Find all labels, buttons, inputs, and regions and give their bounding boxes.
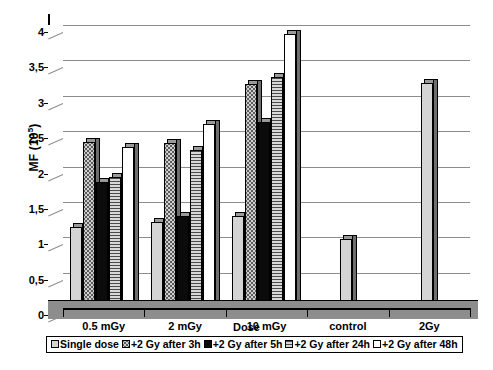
bar-group <box>389 25 470 308</box>
x-tick-mark <box>63 308 64 317</box>
wall-tick <box>48 138 63 145</box>
bar-group <box>307 25 388 308</box>
bar-body <box>232 216 244 308</box>
bar-group <box>144 25 225 308</box>
legend-swatch-icon <box>373 340 381 348</box>
y-tick-label: 2,5 <box>29 132 44 144</box>
chart-side-wall <box>48 25 63 308</box>
legend-swatch-icon <box>122 340 130 348</box>
bar-side-face <box>215 120 220 307</box>
x-tick-mark <box>470 308 471 317</box>
x-tick-mark <box>389 308 390 317</box>
x-axis-title: Dose <box>0 321 493 333</box>
legend-item[interactable]: +2 Gy after 24h <box>282 339 370 350</box>
bar[interactable] <box>190 150 202 308</box>
bar-body <box>258 122 270 308</box>
wall-tick <box>48 280 63 287</box>
legend-swatch-icon <box>51 340 59 348</box>
bar-body <box>109 177 121 308</box>
bar[interactable] <box>96 182 108 308</box>
bar-body <box>177 216 189 308</box>
bar-side-face <box>296 30 301 308</box>
bar-body <box>70 227 82 308</box>
bar-body <box>96 182 108 308</box>
x-tick-mark <box>144 308 145 317</box>
bar-body <box>122 147 134 308</box>
bar-chart: MF (105) 00,511,522,533,54 0.5 mGy2 mGy1… <box>0 0 493 370</box>
wall-tick <box>48 209 63 216</box>
bar-group <box>226 25 307 308</box>
plot-area <box>63 25 470 308</box>
bar[interactable] <box>83 142 95 308</box>
bar-group <box>63 25 144 308</box>
legend-label: +2 Gy after 3h <box>131 339 201 350</box>
y-tick-label: 0,5 <box>29 274 44 286</box>
bar-body <box>151 222 163 308</box>
legend-item[interactable]: +2 Gy after 5h <box>201 339 283 350</box>
bar[interactable] <box>70 227 82 308</box>
bar-body <box>203 124 215 308</box>
x-tick-mark <box>226 308 227 317</box>
y-tick-label: 3,5 <box>29 61 44 73</box>
bar-body <box>245 84 257 308</box>
bar-body <box>340 239 352 308</box>
bar[interactable] <box>271 77 283 308</box>
bar[interactable] <box>421 83 433 308</box>
legend-item[interactable]: +2 Gy after 3h <box>119 339 201 350</box>
bar-body <box>284 34 296 309</box>
bar[interactable] <box>232 216 244 308</box>
bar[interactable] <box>203 124 215 308</box>
wall-tick <box>48 244 63 251</box>
bar-body <box>421 83 433 308</box>
bar[interactable] <box>151 222 163 308</box>
bar[interactable] <box>284 34 296 309</box>
bar-side-face <box>134 143 139 307</box>
bar-body <box>83 142 95 308</box>
y-tick-label: 1,5 <box>29 203 44 215</box>
bar[interactable] <box>340 239 352 308</box>
wall-tick <box>48 32 63 39</box>
legend-label: +2 Gy after 5h <box>213 339 283 350</box>
x-tick-mark <box>307 308 308 317</box>
legend-item[interactable]: +2 Gy after 48h <box>370 339 458 350</box>
legend-swatch-icon <box>204 340 212 348</box>
bar[interactable] <box>164 143 176 308</box>
bar-body <box>164 143 176 308</box>
bar[interactable] <box>177 216 189 308</box>
bar[interactable] <box>122 147 134 308</box>
chart-legend: Single dose+2 Gy after 3h+2 Gy after 5h+… <box>46 336 463 353</box>
wall-tick <box>48 67 63 74</box>
legend-swatch-icon <box>285 340 293 348</box>
bar-body <box>190 150 202 308</box>
wall-tick <box>48 103 63 110</box>
bar-body <box>271 77 283 308</box>
bar-side-face <box>433 79 438 307</box>
legend-item[interactable]: Single dose <box>51 339 119 350</box>
bar[interactable] <box>245 84 257 308</box>
wall-tick <box>48 174 63 181</box>
legend-label: +2 Gy after 24h <box>294 339 370 350</box>
legend-label: +2 Gy after 48h <box>382 339 458 350</box>
legend-label: Single dose <box>60 339 119 350</box>
bar-side-face <box>352 235 357 307</box>
bar[interactable] <box>109 177 121 308</box>
bar[interactable] <box>258 122 270 308</box>
